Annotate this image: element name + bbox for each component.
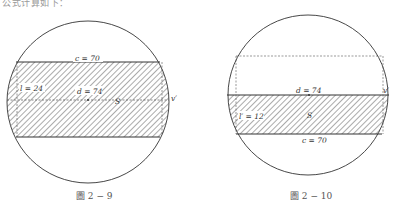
label-c: c = 70 <box>302 136 327 145</box>
caption-fig-2-9: 圖 2 − 9 <box>76 191 113 201</box>
label-d: d = 74 <box>77 87 103 96</box>
hatched-segment-S <box>0 62 200 137</box>
figure-2-10: d = 74 v′ l′ = 12 S c = 70 圖 2 − 10 <box>220 15 400 201</box>
label-S: S <box>307 111 312 120</box>
center-point <box>87 99 89 101</box>
label-c: c = 70 <box>75 54 100 63</box>
label-d: d = 74 <box>296 86 322 95</box>
figure-2-9: c = 70 l = 24 d = 74 S v′ 圖 2 − 9 <box>0 21 200 201</box>
label-l: l = 24 <box>20 84 43 93</box>
diagram-canvas: c = 70 l = 24 d = 74 S v′ 圖 2 − 9 d = 74… <box>0 0 400 212</box>
caption-fig-2-10: 圖 2 − 10 <box>290 191 333 201</box>
label-v: v′ <box>171 94 177 103</box>
label-v: v′ <box>383 86 389 95</box>
label-S: S <box>115 97 120 106</box>
label-l: l′ = 12 <box>239 112 264 121</box>
